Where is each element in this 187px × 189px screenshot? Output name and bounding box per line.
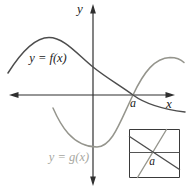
y-axis-label: y [75, 1, 83, 16]
arrowhead-left-icon [9, 92, 19, 98]
f-curve-label: y = f(x) [27, 51, 67, 65]
point-a-label: a [130, 96, 136, 110]
zoom-inset: a [130, 130, 180, 178]
arrowhead-down-icon [90, 177, 96, 187]
figure-canvas: y x y = f(x) y = g(x) a a [0, 0, 187, 189]
arrowhead-up-icon [90, 4, 96, 14]
inset-point-a-label: a [149, 155, 155, 167]
calculus-figure: y x y = f(x) y = g(x) a a [0, 0, 187, 189]
f-curve [8, 38, 185, 113]
g-curve-label: y = g(x) [47, 150, 89, 164]
x-axis-label: x [165, 96, 172, 111]
